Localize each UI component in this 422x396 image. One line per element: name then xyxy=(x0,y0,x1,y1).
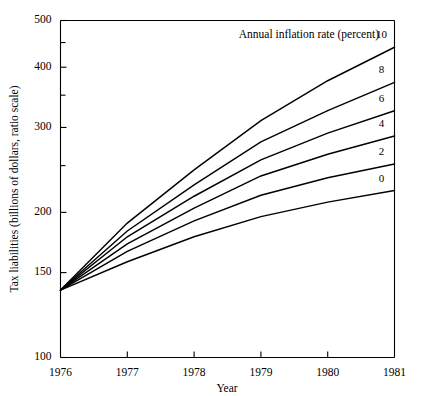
inflation-rate-annotation: Annual inflation rate (percent) xyxy=(239,28,379,41)
tax-liabilities-line-chart: 100150200300400500 197619771978197919801… xyxy=(0,0,422,396)
chart-figure: 100150200300400500 197619771978197919801… xyxy=(0,0,422,396)
x-tick-label: 1978 xyxy=(183,366,206,378)
x-tick-label: 1980 xyxy=(316,366,339,378)
x-tick-label: 1976 xyxy=(49,366,72,378)
series-label-0: 0 xyxy=(379,172,385,184)
y-tick-label: 300 xyxy=(34,120,52,132)
series-label-2: 2 xyxy=(379,145,385,157)
chart-background xyxy=(0,0,422,396)
series-label-4: 4 xyxy=(379,117,385,129)
y-axis-title: Tax liabilities (billions of dollars, ra… xyxy=(8,85,21,292)
y-tick-label: 400 xyxy=(34,60,52,72)
series-label-6: 6 xyxy=(379,92,385,104)
y-tick-label: 100 xyxy=(34,350,52,362)
y-tick-label: 500 xyxy=(34,13,52,25)
x-axis-title: Year xyxy=(216,382,237,394)
x-tick-label: 1979 xyxy=(249,366,272,378)
x-tick-label: 1981 xyxy=(383,366,406,378)
series-label-8: 8 xyxy=(379,63,385,75)
y-tick-label: 150 xyxy=(34,265,52,277)
x-tick-label: 1977 xyxy=(116,366,139,378)
y-tick-label: 200 xyxy=(34,205,52,217)
